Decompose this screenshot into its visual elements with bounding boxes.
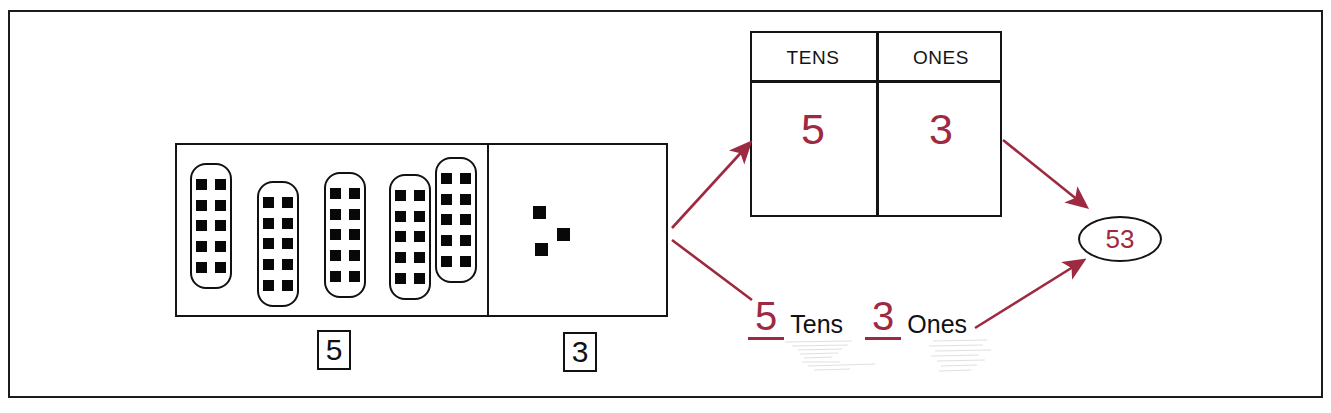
cell-value-tens: 5 bbox=[750, 108, 876, 151]
rod-row bbox=[441, 235, 471, 246]
unit-square bbox=[196, 179, 207, 190]
rod-row bbox=[263, 238, 293, 249]
tens-count-box: 5 bbox=[317, 330, 351, 370]
rod-row bbox=[395, 190, 425, 201]
unit-square bbox=[330, 188, 341, 199]
unit-square bbox=[349, 188, 360, 199]
rod-row bbox=[263, 280, 293, 291]
unit-square bbox=[441, 235, 452, 246]
unit-square bbox=[330, 271, 341, 282]
result-ellipse: 53 bbox=[1078, 216, 1162, 262]
rod-row bbox=[196, 262, 226, 273]
blank-digit-ones: 3 bbox=[865, 296, 901, 340]
unit-square bbox=[441, 173, 452, 184]
unit-square bbox=[215, 262, 226, 273]
unit-square bbox=[395, 252, 406, 263]
rod-row bbox=[441, 214, 471, 225]
ten-rod-2 bbox=[257, 181, 299, 307]
loose-unit-1 bbox=[533, 206, 546, 219]
rod-row bbox=[330, 209, 360, 220]
unit-square bbox=[460, 214, 471, 225]
unit-square bbox=[460, 173, 471, 184]
unit-square bbox=[263, 218, 274, 229]
unit-square bbox=[395, 190, 406, 201]
ten-rod-3 bbox=[324, 172, 366, 298]
rod-row bbox=[263, 197, 293, 208]
unit-square bbox=[282, 238, 293, 249]
ten-rod-4 bbox=[389, 174, 431, 300]
unit-square bbox=[414, 211, 425, 222]
rod-row bbox=[441, 256, 471, 267]
unit-square bbox=[330, 209, 341, 220]
blank-digit-tens: 5 bbox=[748, 296, 784, 340]
unit-square bbox=[441, 194, 452, 205]
unit-square bbox=[441, 214, 452, 225]
rod-row bbox=[196, 220, 226, 231]
rod-row bbox=[330, 229, 360, 240]
rod-row bbox=[330, 271, 360, 282]
unit-square bbox=[196, 241, 207, 252]
unit-square bbox=[349, 209, 360, 220]
ten-rod-5 bbox=[435, 157, 477, 283]
unit-square bbox=[263, 238, 274, 249]
unit-square bbox=[460, 256, 471, 267]
unit-square bbox=[215, 200, 226, 211]
unit-square bbox=[414, 273, 425, 284]
unit-square bbox=[460, 194, 471, 205]
unit-square bbox=[215, 241, 226, 252]
unit-square bbox=[330, 229, 341, 240]
unit-square bbox=[395, 211, 406, 222]
blanks-line: 5 Tens 3 Ones bbox=[748, 296, 989, 340]
column-header-tens: TENS bbox=[750, 47, 876, 69]
unit-square bbox=[263, 280, 274, 291]
rod-row bbox=[441, 173, 471, 184]
unit-square bbox=[215, 179, 226, 190]
rod-row bbox=[263, 218, 293, 229]
unit-square bbox=[282, 259, 293, 270]
unit-square bbox=[196, 200, 207, 211]
unit-square bbox=[349, 250, 360, 261]
rod-row bbox=[395, 211, 425, 222]
ones-count-box: 3 bbox=[563, 332, 597, 372]
rod-row bbox=[441, 194, 471, 205]
unit-square bbox=[395, 273, 406, 284]
loose-unit-2 bbox=[557, 228, 570, 241]
unit-square bbox=[395, 231, 406, 242]
result-value: 53 bbox=[1106, 226, 1135, 252]
unit-square bbox=[215, 220, 226, 231]
rod-row bbox=[395, 252, 425, 263]
rod-row bbox=[263, 259, 293, 270]
rod-row bbox=[196, 179, 226, 190]
unit-square bbox=[414, 252, 425, 263]
blank-group-tens: 5 Tens bbox=[748, 296, 843, 340]
rod-row bbox=[395, 231, 425, 242]
tens-count-value: 5 bbox=[326, 335, 343, 365]
pencil-smudge-right bbox=[925, 336, 1015, 378]
unit-square bbox=[196, 220, 207, 231]
unit-square bbox=[196, 262, 207, 273]
ones-count-value: 3 bbox=[572, 337, 589, 367]
rod-row bbox=[330, 250, 360, 261]
unit-square bbox=[460, 235, 471, 246]
unit-square bbox=[349, 271, 360, 282]
worksheet-canvas: 5 3 TENS ONES 5 3 5 Tens 3 Ones bbox=[0, 0, 1331, 413]
unit-square bbox=[414, 190, 425, 201]
column-header-ones: ONES bbox=[878, 47, 1004, 69]
unit-square bbox=[330, 250, 341, 261]
unit-square bbox=[282, 218, 293, 229]
rod-row bbox=[196, 241, 226, 252]
unit-square bbox=[282, 280, 293, 291]
blank-group-ones: 3 Ones bbox=[865, 296, 967, 340]
rod-row bbox=[196, 200, 226, 211]
unit-square bbox=[441, 256, 452, 267]
blocks-divider bbox=[487, 143, 489, 317]
unit-square bbox=[414, 231, 425, 242]
ten-rod-1 bbox=[190, 163, 232, 289]
unit-square bbox=[263, 197, 274, 208]
rod-row bbox=[395, 273, 425, 284]
unit-square bbox=[349, 229, 360, 240]
pencil-smudge-left bbox=[780, 336, 890, 376]
cell-value-ones: 3 bbox=[878, 108, 1004, 151]
unit-square bbox=[263, 259, 274, 270]
unit-square bbox=[282, 197, 293, 208]
